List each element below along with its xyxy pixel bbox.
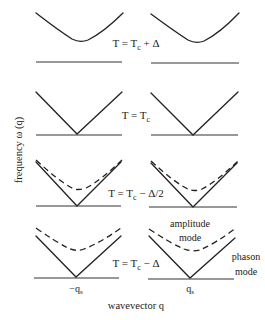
temperature-label: T = Tc xyxy=(122,109,151,124)
tick-minus-qs: −qs xyxy=(69,283,83,296)
right-gapped-dispersion-curve xyxy=(151,13,239,42)
x-axis-label: wavevector q xyxy=(108,300,165,311)
right-v-dispersion xyxy=(151,92,238,135)
phason-mode-label: phason xyxy=(232,251,260,262)
left-gapped-dispersion-curve xyxy=(36,13,123,41)
y-axis-label: frequency ω (q) xyxy=(13,116,25,183)
amplitude-mode-label-line2: mode xyxy=(179,232,202,243)
amplitude-mode-label: amplitude xyxy=(170,218,211,229)
right-v-dispersion xyxy=(151,163,237,207)
temperature-label: T = Tc + Δ xyxy=(112,37,159,52)
phason-mode-label-line2: mode xyxy=(235,266,258,277)
panel-row-above-tc: T = Tc + Δ xyxy=(36,13,239,63)
left-v-dispersion xyxy=(36,162,121,206)
panel-row-at-tc: T = Tc xyxy=(36,92,238,135)
left-v-dispersion xyxy=(36,236,121,277)
panel-row-below-tc: T = Tc − Δ amplitude mode phason mode xyxy=(34,218,260,279)
panel-row-half-below-tc: T = Tc − Δ/2 xyxy=(36,160,238,207)
tick-qs: qs xyxy=(186,283,194,296)
temperature-label: T = Tc − Δ/2 xyxy=(108,187,164,202)
left-v-dispersion xyxy=(36,92,122,134)
temperature-label: T = Tc − Δ xyxy=(112,257,159,272)
dispersion-figure: frequency ω (q) T = Tc + Δ T = Tc T = Tc… xyxy=(0,0,265,320)
